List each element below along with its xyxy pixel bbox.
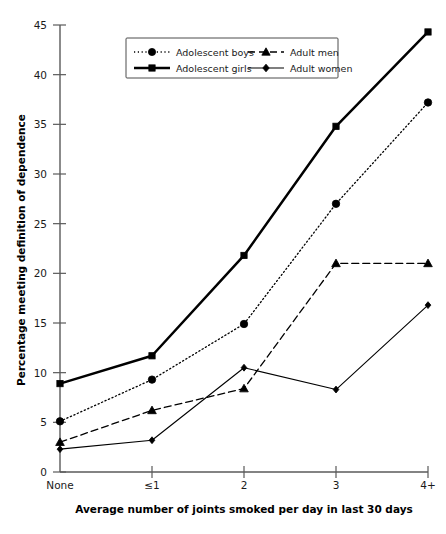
series-line [60,102,428,421]
x-tick-label: None [46,479,73,491]
data-point [241,364,247,371]
data-point [149,353,155,359]
data-point [241,252,247,258]
chart-legend: Adolescent boysAdult menAdolescent girls… [126,38,352,78]
y-tick-label: 5 [40,416,47,428]
y-tick-label: 15 [34,317,47,329]
series-adolescent-boys [56,99,431,425]
data-point [425,29,431,35]
data-point [57,380,63,386]
series-line [60,32,428,384]
y-axis-title: Percentage meeting definition of depende… [15,114,27,386]
data-point [332,200,339,207]
data-point [333,123,339,129]
data-point [332,259,341,267]
y-axis-ticks: 051015202530354045 [34,19,66,478]
x-tick-label: 4+ [420,479,435,491]
series-layer [56,29,433,453]
data-point [57,446,63,453]
x-axis-title-text: Average number of joints smoked per day … [75,503,413,515]
y-tick-label: 45 [34,19,47,31]
data-point [148,376,155,383]
legend-label: Adolescent girls [176,63,252,74]
legend-marker [149,65,155,71]
y-axis-title-text: Percentage meeting definition of depende… [15,114,27,386]
y-tick-label: 20 [34,267,47,279]
data-point [56,418,63,425]
data-point [149,437,155,444]
y-tick-label: 40 [34,69,47,81]
legend-label: Adult men [290,47,339,58]
legend-label: Adult women [290,63,352,74]
y-tick-label: 0 [40,466,47,478]
x-tick-label: 2 [241,479,248,491]
x-tick-label: ≤1 [144,479,159,491]
x-axis-ticks: None≤1234+ [46,466,435,491]
y-tick-label: 35 [34,118,47,130]
y-tick-label: 30 [34,168,47,180]
y-tick-label: 25 [34,218,47,230]
y-tick-label: 10 [34,367,47,379]
series-adolescent-girls [57,29,431,387]
legend-marker [148,48,155,55]
data-point [240,384,249,392]
legend-label: Adolescent boys [176,47,254,58]
data-point [424,99,431,106]
data-point [240,320,247,327]
x-tick-label: 3 [333,479,340,491]
dependence-line-chart: Percentage meeting definition of depende… [0,0,446,534]
chart-container: Percentage meeting definition of depende… [0,0,446,534]
series-line [60,263,428,442]
